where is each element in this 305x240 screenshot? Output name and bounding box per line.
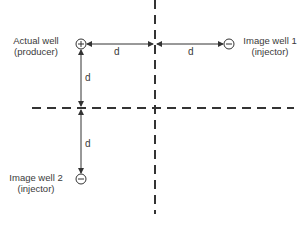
distance-label: d: [85, 138, 91, 149]
image-well-1-type: (injector): [236, 46, 304, 57]
image-well-2-label: Image well 2 (injector): [2, 172, 70, 194]
image-well-1-name: Image well 1: [236, 35, 304, 46]
minus-circle-icon: [224, 39, 234, 49]
actual-well-label: Actual well (producer): [4, 35, 68, 57]
distance-label: d: [114, 46, 120, 57]
distance-label: d: [85, 72, 91, 83]
image-well-1-label: Image well 1 (injector): [236, 35, 304, 57]
image-well-2-type: (injector): [2, 183, 70, 194]
minus-circle-icon: [76, 174, 86, 184]
actual-well-name: Actual well: [4, 35, 68, 46]
plus-circle-icon: [76, 39, 86, 49]
distance-label: d: [188, 46, 194, 57]
actual-well-type: (producer): [4, 46, 68, 57]
image-well-2-name: Image well 2: [2, 172, 70, 183]
